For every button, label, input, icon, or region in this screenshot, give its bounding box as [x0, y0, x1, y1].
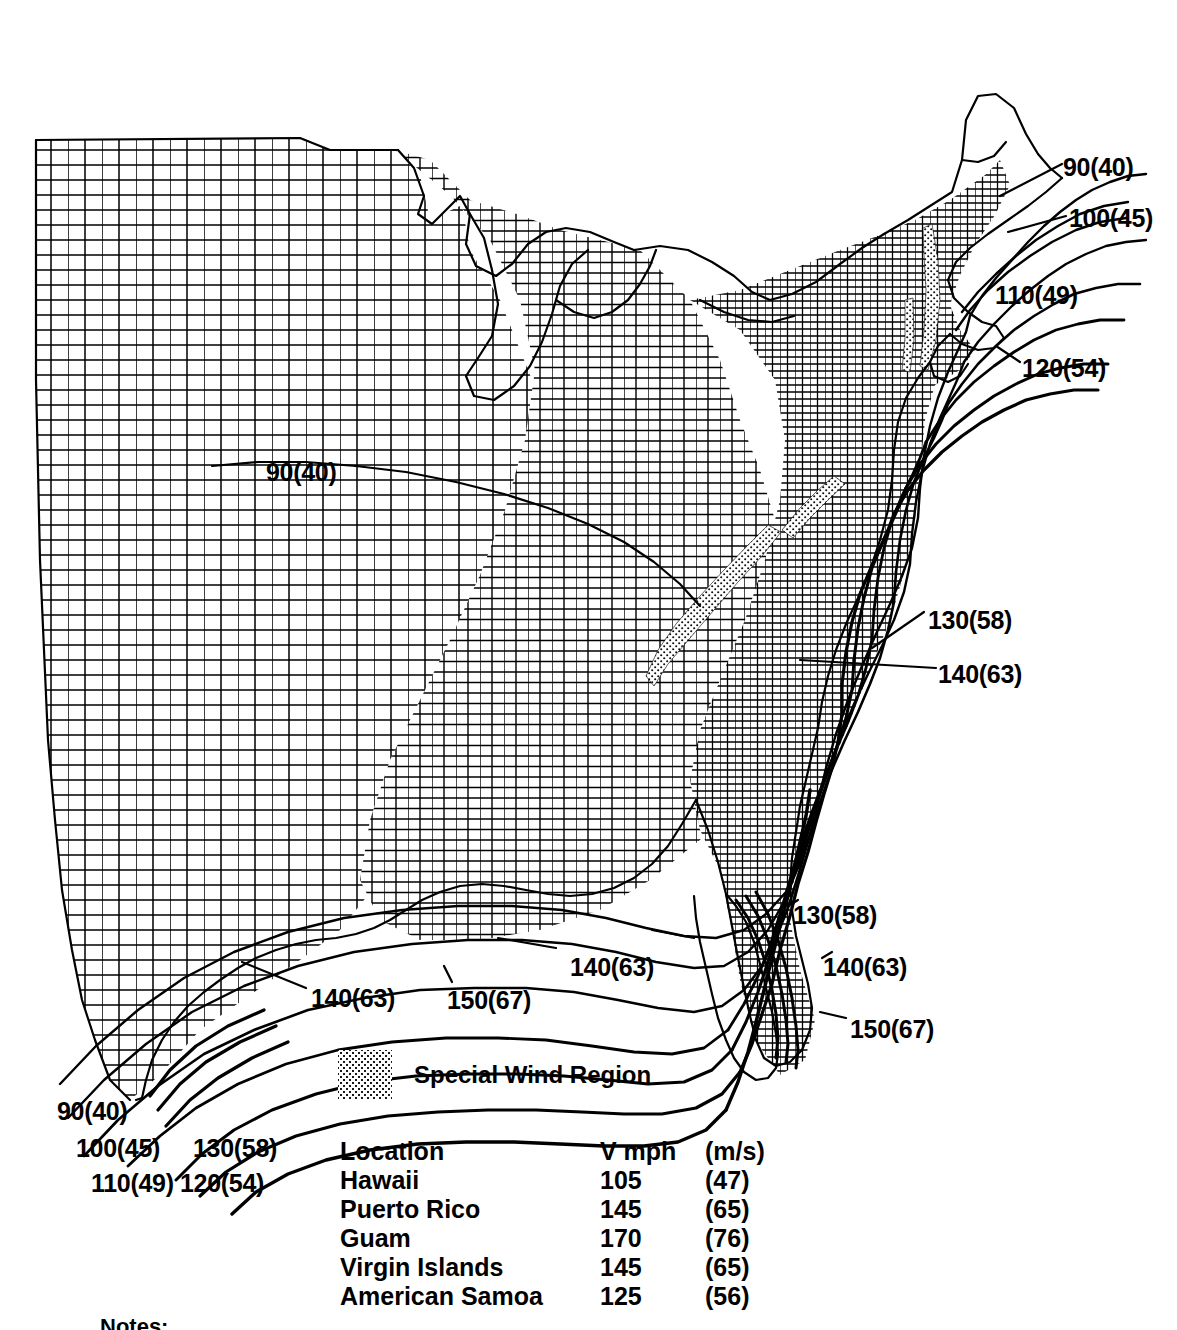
cell-mph: 170	[600, 1225, 705, 1254]
wind-label-tx-110: 110(49)	[91, 1171, 174, 1196]
cell-mph: 145	[600, 1254, 705, 1283]
wind-label-ne-90: 90(40)	[1063, 155, 1133, 180]
wind-label-ne-100: 100(45)	[1069, 206, 1153, 231]
wind-label-fl-140: 140(63)	[823, 955, 907, 980]
table-row: Guam 170 (76)	[340, 1225, 805, 1254]
map-legend: Special Wind Region	[338, 1050, 651, 1100]
header-location: Location	[340, 1138, 600, 1167]
cell-location: Puerto Rico	[340, 1196, 600, 1225]
cell-ms: (56)	[705, 1283, 805, 1312]
cell-mph: 125	[600, 1283, 705, 1312]
special-wind-region-swatch	[338, 1050, 392, 1100]
wind-label-mid-140: 140(63)	[938, 662, 1022, 687]
table-row: Virgin Islands 145 (65)	[340, 1254, 805, 1283]
table-row: Puerto Rico 145 (65)	[340, 1196, 805, 1225]
wind-label-gulf-east-140: 140(63)	[570, 955, 654, 980]
table-row: Hawaii 105 (47)	[340, 1167, 805, 1196]
wind-label-ne-120: 120(54)	[1022, 356, 1106, 381]
header-v-mph: V mph	[600, 1138, 705, 1167]
wind-label-tx-120: 120(54)	[180, 1171, 264, 1196]
cell-ms: (47)	[705, 1167, 805, 1196]
cell-location: Hawaii	[340, 1167, 600, 1196]
cell-location: Guam	[340, 1225, 600, 1254]
table-row: American Samoa 125 (56)	[340, 1283, 805, 1312]
wind-label-ne-110: 110(49)	[995, 283, 1078, 308]
cell-ms: (76)	[705, 1225, 805, 1254]
cell-ms: (65)	[705, 1254, 805, 1283]
wind-label-fl-130: 130(58)	[793, 903, 877, 928]
wind-label-fl-150: 150(67)	[850, 1017, 934, 1042]
cell-ms: (65)	[705, 1196, 805, 1225]
wind-label-gulf-150: 150(67)	[447, 988, 531, 1013]
cell-mph: 105	[600, 1167, 705, 1196]
header-ms: (m/s)	[705, 1138, 805, 1167]
wind-label-tx-130: 130(58)	[193, 1136, 277, 1161]
wind-speed-map-page: 90(40) 100(45) 110(49) 120(54) 90(40) 13…	[0, 0, 1177, 1330]
wind-label-interior-90: 90(40)	[266, 460, 336, 485]
cell-mph: 145	[600, 1196, 705, 1225]
wind-label-gulf-west-140: 140(63)	[311, 986, 395, 1011]
cell-location: Virgin Islands	[340, 1254, 600, 1283]
location-wind-speed-table: Location V mph (m/s) Hawaii 105 (47) Pue…	[340, 1138, 805, 1312]
wind-label-tx-100: 100(45)	[76, 1136, 160, 1161]
cell-location: American Samoa	[340, 1283, 600, 1312]
special-wind-region-label: Special Wind Region	[414, 1061, 651, 1089]
wind-label-mid-130: 130(58)	[928, 608, 1012, 633]
bottom-note-cutoff: Notes:	[100, 1316, 168, 1330]
table-header-row: Location V mph (m/s)	[340, 1138, 805, 1167]
wind-label-tx-90: 90(40)	[57, 1099, 127, 1124]
